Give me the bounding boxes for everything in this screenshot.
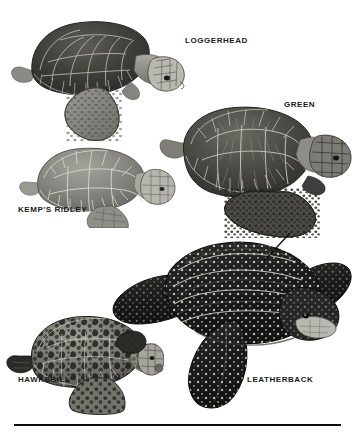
label-green: GREEN: [284, 101, 315, 109]
bottom-rule: [14, 424, 341, 426]
label-loggerhead: LOGGERHEAD: [185, 37, 248, 45]
label-hawksbill: HAWKSBILL: [18, 376, 71, 384]
leatherback-pointer-line: [250, 228, 296, 266]
hawksbill-turtle: [4, 306, 164, 416]
label-kemps-ridley: KEMP'S RIDLEY: [18, 206, 87, 214]
green-turtle: [158, 98, 354, 238]
sea-turtle-plate: LOGGERHEAD GREEN KEMP'S RIDLEY HAWKSBILL…: [0, 0, 354, 437]
kemps-ridley-turtle: [18, 140, 176, 228]
label-leatherback: LEATHERBACK: [247, 376, 313, 384]
